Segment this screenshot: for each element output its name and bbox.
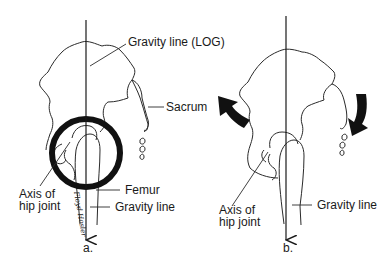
leader-axis-hip-b [232,152,268,206]
label-gravity-line-a: Gravity line [115,200,175,214]
caption-b: b. [283,241,293,255]
hip-gravity-diagram: Gravity line (LOG) Sacrum Axis of hip jo… [0,0,386,267]
leader-gravity-log [90,44,126,66]
caption-a: a. [83,241,93,255]
pelvis-outline-b [240,49,347,178]
coccyx-a [140,138,145,159]
panel-a: Gravity line (LOG) Sacrum Axis of hip jo… [19,20,225,255]
acetabulum-a [72,126,97,141]
label-femur: Femur [125,183,160,197]
rotation-arrow-right-icon [348,94,368,136]
panel-b: Axis of hip joint Gravity line b. [218,16,377,255]
rotation-arrow-left-icon [218,96,250,128]
coccyx-b [340,134,347,155]
label-gravity-line-b: Gravity line [317,198,377,212]
label-axis-hip-a-2: hip joint [19,199,61,213]
femur-b [279,140,304,225]
label-axis-hip-b-2: hip joint [219,215,261,229]
label-sacrum: Sacrum [166,100,207,114]
label-gravity-line-log: Gravity line (LOG) [128,35,225,49]
